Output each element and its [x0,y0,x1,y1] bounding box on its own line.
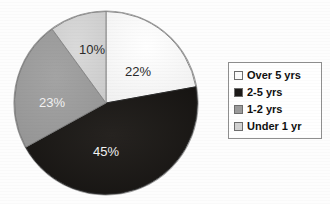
legend-label-2-5-yrs: 2-5 yrs [247,86,282,98]
pie-data-label-2-5-yrs: 45% [93,144,119,159]
pie-data-label-under-1-yr: 10% [79,42,105,57]
legend-swatch-icon-2-5-yrs [234,88,243,97]
legend-label-over-5-yrs: Over 5 yrs [247,69,301,81]
pie-chart-figure: 22% 45% 23% 10% Over 5 yrs 2-5 yrs 1-2 y… [0,0,330,204]
chart-legend: Over 5 yrs 2-5 yrs 1-2 yrs Under 1 yr [228,62,322,139]
legend-swatch-icon-1-2-yrs [234,105,243,114]
legend-label-1-2-yrs: 1-2 yrs [247,103,282,115]
legend-label-under-1-yr: Under 1 yr [247,120,301,132]
legend-item-1-2-yrs[interactable]: 1-2 yrs [234,101,317,117]
pie-chart-svg: 22% 45% 23% 10% [13,10,199,196]
pie-data-label-1-2-yrs: 23% [39,95,65,110]
legend-item-over-5-yrs[interactable]: Over 5 yrs [234,67,317,83]
pie-data-label-over-5-yrs: 22% [125,64,151,79]
pie-chart-plot-area: 22% 45% 23% 10% [13,10,199,196]
legend-swatch-icon-under-1-yr [234,122,243,131]
legend-swatch-icon-over-5-yrs [234,71,243,80]
legend-item-under-1-yr[interactable]: Under 1 yr [234,118,317,134]
legend-item-2-5-yrs[interactable]: 2-5 yrs [234,84,317,100]
